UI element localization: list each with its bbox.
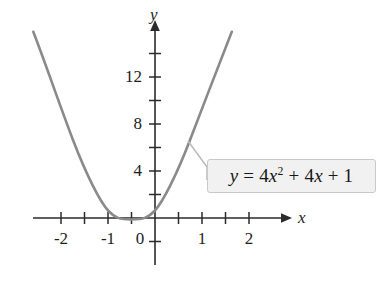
equation-equals: = — [243, 165, 254, 186]
equation-constant-term: 1 — [344, 165, 354, 186]
x-axis-arrowhead — [281, 213, 292, 223]
equation-text: y = 4x2 + 4x + 1 — [230, 165, 354, 187]
equation-term1-coefficient: 4 — [259, 165, 269, 186]
y-axis-label: y — [150, 6, 158, 23]
x-tick-label-2: 2 — [234, 230, 264, 247]
graph-figure: 12 8 4 -2 -1 0 1 2 y x y = 4x2 + 4x + 1 — [0, 0, 392, 283]
equation-term2-coefficient: 4 — [304, 165, 314, 186]
equation-term2-variable: x — [314, 165, 323, 186]
equation-callout-box: y = 4x2 + 4x + 1 — [207, 159, 376, 193]
x-tick-label-neg2: -2 — [46, 230, 76, 247]
equation-plus-2: + — [328, 165, 339, 186]
x-tick-label-neg1: -1 — [93, 230, 123, 247]
equation-plus-1: + — [289, 165, 300, 186]
x-tick-label-0: 0 — [125, 230, 155, 247]
y-tick-label-12: 12 — [112, 68, 142, 85]
x-axis-label: x — [298, 209, 306, 226]
callout-tail — [188, 141, 207, 180]
y-tick-label-4: 4 — [112, 162, 142, 179]
y-tick-label-8: 8 — [112, 115, 142, 132]
equation-term1-variable: x — [269, 165, 278, 186]
x-tick-label-1: 1 — [187, 230, 217, 247]
